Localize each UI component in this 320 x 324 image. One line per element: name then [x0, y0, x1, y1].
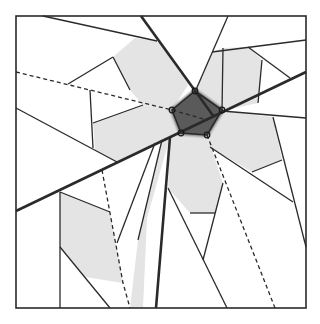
- thin-line: [273, 117, 306, 247]
- petal-lower-left: [60, 192, 123, 283]
- geometric-partition-diagram: [0, 0, 320, 324]
- thin-line: [68, 57, 113, 84]
- petal-upper-left: [113, 38, 190, 110]
- thin-line: [212, 40, 306, 52]
- diagram-stage: [0, 0, 320, 324]
- thin-line: [90, 90, 93, 148]
- thin-line: [43, 16, 157, 41]
